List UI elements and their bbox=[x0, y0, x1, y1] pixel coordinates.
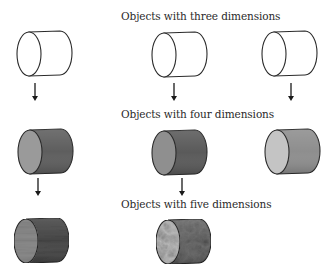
cylinder-three-dimensions-2 bbox=[152, 32, 207, 77]
cylinder-five-dimensions-2 bbox=[156, 219, 211, 264]
dimensions-diagram bbox=[0, 0, 335, 275]
cylinder-four-dimensions-1 bbox=[18, 129, 73, 174]
cylinder-face bbox=[17, 32, 41, 76]
cylinder-four-dimensions-3 bbox=[265, 129, 320, 174]
cylinder-face bbox=[156, 220, 180, 264]
cylinder-face bbox=[14, 219, 38, 263]
arrow-down-icon bbox=[179, 178, 185, 196]
arrow-down-icon bbox=[32, 83, 38, 101]
arrow-down-icon bbox=[35, 178, 41, 196]
cylinder-face bbox=[152, 131, 176, 175]
cylinder-face bbox=[152, 33, 176, 77]
cylinder-five-dimensions-1 bbox=[14, 218, 69, 263]
cylinder-four-dimensions-2 bbox=[152, 130, 207, 175]
arrow-down-icon bbox=[171, 83, 177, 101]
cylinder-face bbox=[265, 130, 289, 174]
cylinder-three-dimensions-3 bbox=[262, 31, 317, 76]
cylinder-face bbox=[18, 130, 42, 174]
cylinder-three-dimensions-1 bbox=[17, 31, 72, 76]
cylinder-face bbox=[262, 32, 286, 76]
arrow-down-icon bbox=[288, 83, 294, 101]
